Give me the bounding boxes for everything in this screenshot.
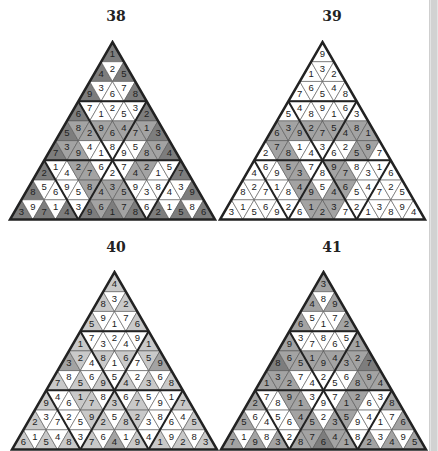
cell-digit: 9 bbox=[100, 377, 105, 388]
cell-digit: 3 bbox=[228, 206, 233, 217]
cell-digit: 2 bbox=[319, 206, 324, 217]
cell-digit: 9 bbox=[168, 431, 173, 442]
cell-digit: 4 bbox=[263, 416, 268, 427]
cell-digit: 3 bbox=[298, 332, 303, 343]
cell-digit: 4 bbox=[366, 411, 371, 422]
cell-digit: 6 bbox=[98, 201, 103, 212]
cell-digit: 2 bbox=[355, 391, 360, 402]
cell-digit: 1 bbox=[309, 352, 314, 363]
cell-digit: 8 bbox=[75, 122, 80, 133]
cell-digit: 1 bbox=[98, 147, 103, 158]
cell-digit: 3 bbox=[111, 397, 116, 408]
cell-digit: 1 bbox=[166, 201, 171, 212]
cell-digit: 9 bbox=[134, 436, 139, 447]
vertical-scrollbar[interactable] bbox=[429, 0, 438, 451]
cell-digit: 7 bbox=[121, 161, 126, 172]
cell-digit: 2 bbox=[262, 147, 267, 158]
cell-digit: 5 bbox=[354, 147, 359, 158]
cell-digit: 4 bbox=[331, 186, 336, 197]
cell-digit: 7 bbox=[262, 186, 267, 197]
cell-digit: 6 bbox=[342, 102, 347, 113]
puzzle-41-grid: 3489651729378651865194327132742568942789… bbox=[219, 270, 428, 451]
cell-digit: 2 bbox=[109, 167, 114, 178]
cell-digit: 2 bbox=[134, 411, 139, 422]
cell-digit: 2 bbox=[109, 63, 114, 74]
cell-digit: 1 bbox=[144, 122, 149, 133]
cell-digit: 7 bbox=[308, 161, 313, 172]
cell-digit: 7 bbox=[52, 147, 57, 158]
cell-digit: 1 bbox=[111, 318, 116, 329]
cell-digit: 9 bbox=[274, 167, 279, 178]
cell-digit: 8 bbox=[389, 397, 394, 408]
cell-digit: 6 bbox=[109, 127, 114, 138]
cell-digit: 5 bbox=[319, 88, 324, 99]
cell-digit: 7 bbox=[376, 147, 381, 158]
cell-digit: 6 bbox=[298, 318, 303, 329]
cell-digit: 5 bbox=[121, 186, 126, 197]
cell-digit: 1 bbox=[377, 416, 382, 427]
cell-digit: 2 bbox=[320, 371, 325, 382]
cell-digit: 8 bbox=[144, 147, 149, 158]
cell-digit: 9 bbox=[365, 141, 370, 152]
cell-digit: 2 bbox=[331, 68, 336, 79]
puzzle-38-grid: 1425936786712532582964713739418958642142… bbox=[8, 40, 217, 222]
cell-digit: 6 bbox=[100, 431, 105, 442]
cell-digit: 7 bbox=[121, 201, 126, 212]
cell-digit: 4 bbox=[87, 141, 92, 152]
cell-digit: 7 bbox=[309, 431, 314, 442]
cell-digit: 7 bbox=[180, 397, 185, 408]
cell-digit: 2 bbox=[41, 167, 46, 178]
cell-digit: 3 bbox=[146, 377, 151, 388]
cell-digit: 5 bbox=[178, 206, 183, 217]
cell-digit: 4 bbox=[298, 411, 303, 422]
cell-digit: 6 bbox=[331, 147, 336, 158]
cell-digit: 7 bbox=[41, 206, 46, 217]
scrollbar-thumb[interactable] bbox=[431, 0, 437, 451]
cell-digit: 9 bbox=[43, 397, 48, 408]
cell-digit: 7 bbox=[89, 436, 94, 447]
cell-digit: 5 bbox=[41, 181, 46, 192]
cell-digit: 8 bbox=[319, 167, 324, 178]
cell-digit: 2 bbox=[355, 352, 360, 363]
cell-digit: 3 bbox=[178, 181, 183, 192]
cell-digit: 2 bbox=[366, 436, 371, 447]
cell-digit: 3 bbox=[98, 82, 103, 93]
cell-digit: 4 bbox=[123, 338, 128, 349]
cell-digit: 8 bbox=[66, 436, 71, 447]
cell-digit: 5 bbox=[64, 127, 69, 138]
cell-digit: 5 bbox=[111, 371, 116, 382]
cell-digit: 8 bbox=[320, 293, 325, 304]
cell-digit: 2 bbox=[66, 411, 71, 422]
cell-digit: 6 bbox=[98, 161, 103, 172]
cell-digit: 5 bbox=[121, 68, 126, 79]
cell-digit: 2 bbox=[342, 141, 347, 152]
cell-digit: 5 bbox=[166, 161, 171, 172]
cell-digit: 8 bbox=[109, 141, 114, 152]
cell-digit: 7 bbox=[342, 206, 347, 217]
cell-digit: 9 bbox=[157, 397, 162, 408]
cell-digit: 3 bbox=[319, 63, 324, 74]
cell-digit: 9 bbox=[75, 147, 80, 158]
cell-digit: 8 bbox=[388, 206, 393, 217]
cell-digit: 2 bbox=[286, 377, 291, 388]
cell-digit: 8 bbox=[354, 122, 359, 133]
cell-digit: 1 bbox=[343, 436, 348, 447]
cell-digit: 9 bbox=[332, 298, 337, 309]
cell-digit: 3 bbox=[18, 206, 23, 217]
cell-digit: 6 bbox=[286, 352, 291, 363]
cell-digit: 5 bbox=[146, 352, 151, 363]
cell-digit: 9 bbox=[366, 371, 371, 382]
cell-digit: 1 bbox=[123, 431, 128, 442]
cell-digit: 6 bbox=[75, 108, 80, 119]
cell-digit: 1 bbox=[240, 201, 245, 212]
cell-digit: 3 bbox=[77, 431, 82, 442]
cell-digit: 5 bbox=[332, 377, 337, 388]
cell-digit: 5 bbox=[411, 436, 416, 447]
cell-digit: 1 bbox=[298, 397, 303, 408]
cell-digit: 2 bbox=[77, 352, 82, 363]
cell-digit: 9 bbox=[87, 88, 92, 99]
cell-digit: 8 bbox=[275, 357, 280, 368]
cell-digit: 1 bbox=[320, 318, 325, 329]
cell-digit: 8 bbox=[320, 332, 325, 343]
cell-digit: 3 bbox=[100, 338, 105, 349]
